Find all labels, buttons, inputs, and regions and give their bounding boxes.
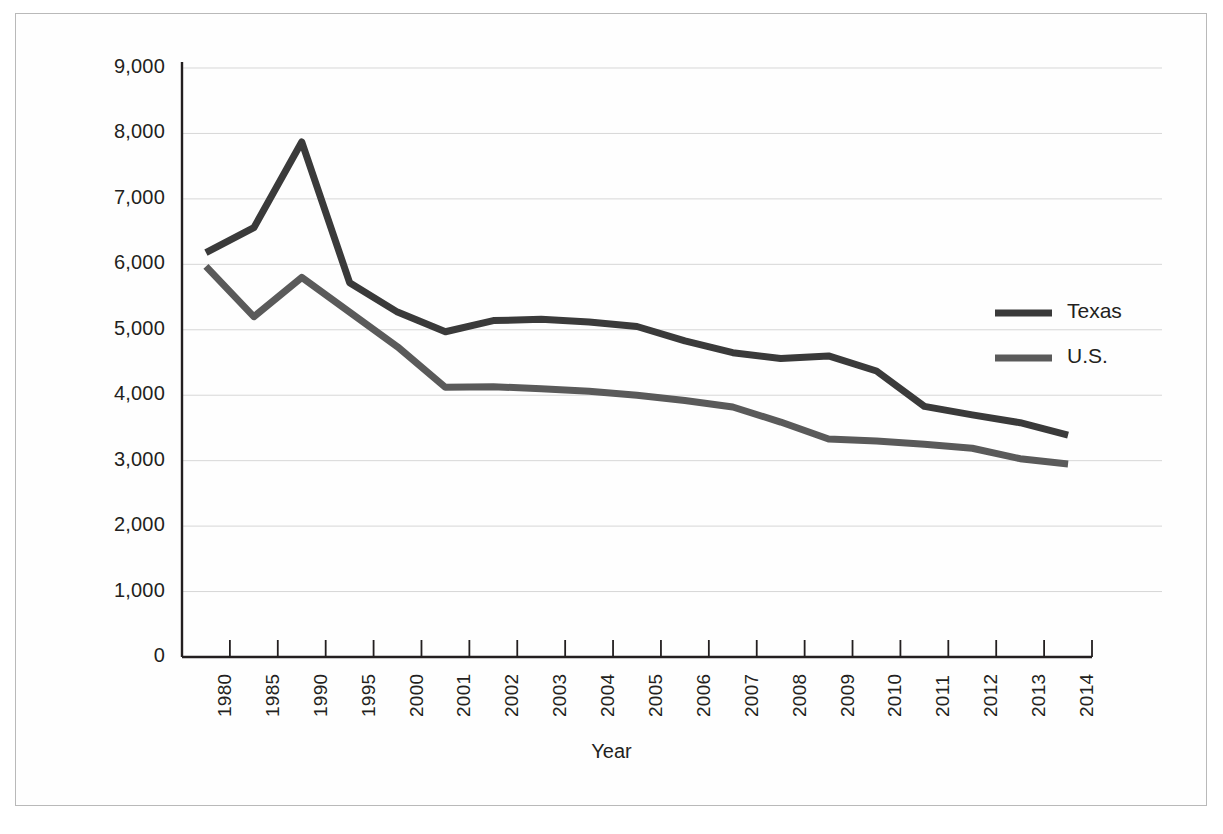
x-axis-tick-label: 2007 xyxy=(741,674,763,717)
x-axis-ticks xyxy=(230,640,1092,657)
x-axis-tick-label: 1980 xyxy=(214,674,236,717)
axes-group xyxy=(182,62,1092,657)
y-axis-tick-label: 7,000 xyxy=(75,186,165,209)
x-axis-tick-label: 2004 xyxy=(597,674,619,717)
x-axis-tick-label: 2014 xyxy=(1076,674,1098,717)
y-axis-tick-label: 3,000 xyxy=(75,448,165,471)
legend-label-us: U.S. xyxy=(1067,344,1108,368)
x-axis-tick-label: 2010 xyxy=(884,674,906,717)
x-axis-tick-label: 2008 xyxy=(789,674,811,717)
x-axis-tick-label: 2001 xyxy=(453,674,475,717)
x-axis-tick-label: 1990 xyxy=(310,674,332,717)
legend-label-texas: Texas xyxy=(1067,299,1122,323)
gridlines-group xyxy=(182,68,1162,592)
series-line-texas xyxy=(206,142,1068,435)
x-axis-tick-label: 2009 xyxy=(837,674,859,717)
x-axis-tick-label: 2003 xyxy=(549,674,571,717)
y-axis-tick-label: 2,000 xyxy=(75,513,165,536)
y-axis-tick-label: 8,000 xyxy=(75,120,165,143)
y-axis-tick-label: 1,000 xyxy=(75,579,165,602)
y-axis-tick-label: 6,000 xyxy=(75,251,165,274)
x-axis-tick-label: 2013 xyxy=(1028,674,1050,717)
x-axis-tick-label: 1985 xyxy=(262,674,284,717)
y-axis-tick-label: 9,000 xyxy=(75,55,165,78)
x-axis-tick-label: 2011 xyxy=(932,675,954,717)
x-axis-tick-label: 2005 xyxy=(645,674,667,717)
y-axis-tick-label: 4,000 xyxy=(75,382,165,405)
x-axis-tick-label: 2000 xyxy=(406,674,428,717)
series-line-us xyxy=(206,266,1068,464)
legend-swatches xyxy=(995,313,1052,358)
x-axis-title: Year xyxy=(0,740,1223,763)
x-axis-tick-label: 2006 xyxy=(693,674,715,717)
x-axis-tick-label: 2002 xyxy=(501,674,523,717)
x-axis-tick-label: 1995 xyxy=(358,674,380,717)
y-axis-tick-label: 0 xyxy=(75,644,165,667)
x-axis-tick-label: 2012 xyxy=(980,674,1002,717)
y-axis-tick-label: 5,000 xyxy=(75,317,165,340)
data-series-group xyxy=(206,142,1068,464)
